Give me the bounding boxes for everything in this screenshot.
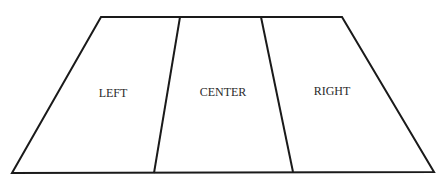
region-label-right: RIGHT [314,84,351,98]
divider-center-right [261,17,293,172]
trapezoid-diagram: LEFT CENTER RIGHT [0,0,447,185]
divider-left-center [154,17,180,173]
region-label-center: CENTER [200,85,247,99]
region-label-left: LEFT [99,86,128,100]
